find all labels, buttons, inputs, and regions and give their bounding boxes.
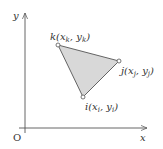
vertex-j-label: j(xj, yj) <box>119 65 154 78</box>
vertex-j <box>117 59 121 63</box>
origin-label: O <box>13 132 21 143</box>
vertex-k <box>56 43 60 47</box>
vertex-i-label: i(xi, yi) <box>85 101 118 114</box>
vertex-k-label: k(xk, yk) <box>50 31 90 44</box>
y-axis-label: y <box>12 10 19 21</box>
vertex-i <box>81 95 85 99</box>
x-axis-label: x <box>140 132 146 143</box>
triangle-element-diagram: y x O k(xk, yk) j(xj, yj) i(xi, yi) <box>0 0 163 149</box>
triangle <box>58 45 119 97</box>
